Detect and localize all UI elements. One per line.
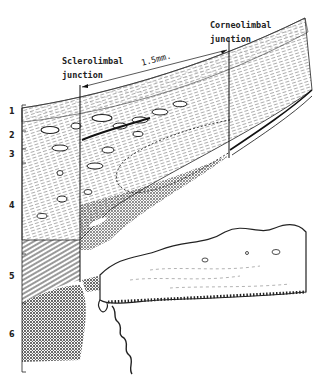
corneolimbal-label-line2: junction [210,34,271,44]
corneolimbal-label: Corneolimbal junction [210,20,271,44]
layer-label-6: 6 [9,330,15,339]
iris [100,225,306,303]
ciliary-processes [112,306,132,374]
sclerolimbal-label-line1: Sclerolimbal [62,56,123,66]
layer-label-1: 1 [9,107,15,116]
layer-label-4: 4 [9,201,15,210]
layer-label-5: 5 [9,272,15,281]
layer-label-2: 2 [9,131,15,140]
corneolimbal-label-line1: Corneolimbal [210,20,271,30]
sclerolimbal-label-line2: junction [62,70,123,80]
layer-label-3: 3 [9,150,15,159]
sclerolimbal-label: Sclerolimbal junction [62,56,123,80]
